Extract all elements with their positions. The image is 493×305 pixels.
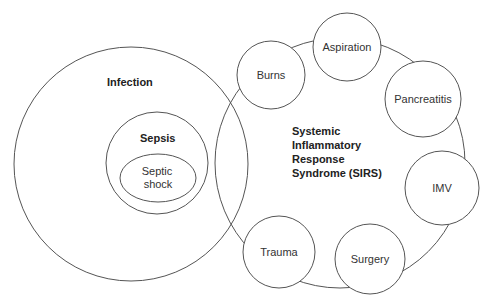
sirs-label-line3: Response	[292, 153, 345, 165]
infection-set: Infection	[14, 47, 248, 281]
infection-label: Infection	[107, 76, 153, 88]
pancreatitis-label: Pancreatitis	[394, 93, 452, 105]
septic-shock-set: Septic shock	[120, 154, 196, 202]
sepsis-sirs-diagram: Infection Sepsis Septic shock Systemic I…	[0, 0, 493, 305]
cause-node-surgery: Surgery	[335, 224, 405, 294]
septic-shock-label-line2: shock	[144, 178, 173, 190]
septic-shock-label-line1: Septic	[142, 165, 173, 177]
sepsis-label: Sepsis	[140, 132, 175, 144]
imv-label: IMV	[432, 182, 452, 194]
cause-node-trauma: Trauma	[243, 216, 315, 288]
sepsis-circle	[106, 112, 208, 214]
surgery-label: Surgery	[351, 253, 390, 265]
cause-node-imv: IMV	[405, 151, 479, 225]
cause-node-burns: Burns	[237, 41, 305, 109]
trauma-label: Trauma	[260, 246, 298, 258]
sirs-label-line1: Systemic	[292, 125, 340, 137]
cause-node-pancreatitis: Pancreatitis	[385, 61, 461, 137]
aspiration-label: Aspiration	[323, 41, 372, 53]
sirs-label-line4: Syndrome (SIRS)	[292, 167, 382, 179]
burns-label: Burns	[257, 69, 286, 81]
sirs-label-line2: Inflammatory	[292, 139, 362, 151]
cause-node-aspiration: Aspiration	[313, 13, 381, 81]
sepsis-set: Sepsis	[106, 112, 208, 214]
